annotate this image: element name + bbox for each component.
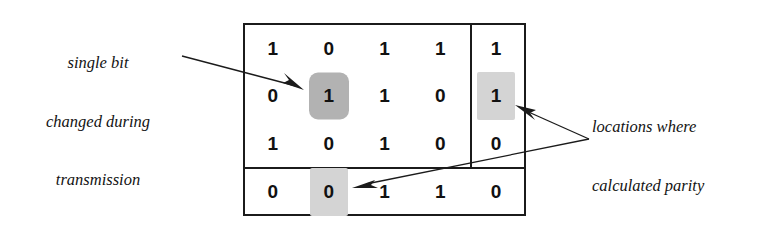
annotation-left-line-2: changed during (0, 112, 196, 132)
bit-value: 1 (379, 86, 390, 105)
bit-cell-r1c2: 0 (301, 25, 357, 72)
parity-cell-r3: 0 (468, 120, 524, 167)
bit-cell-r3c2: 0 (301, 120, 357, 167)
table-row: 1 0 1 0 0 (245, 120, 524, 167)
bit-cell-r3c4: 0 (412, 120, 468, 167)
bit-value: 0 (268, 86, 279, 105)
parity-cell-c4: 1 (412, 169, 468, 214)
bit-value: 0 (435, 134, 446, 153)
leader-parity-column-line (524, 110, 589, 139)
table-row: 1 0 1 1 1 (245, 25, 524, 72)
parity-cell-corner: 0 (468, 169, 524, 214)
annotation-left-line-3: transmission (0, 170, 196, 190)
bit-cell-r2c3: 1 (357, 72, 413, 119)
bit-cell-r3c3: 1 (357, 120, 413, 167)
bit-cell-r2c2-flipped: 1 (301, 72, 357, 119)
bit-cell-r3c1: 1 (245, 120, 301, 167)
parity-grid: 1 0 1 1 1 0 1 1 (243, 23, 526, 216)
table-row: 0 1 1 0 1 (245, 72, 524, 119)
bit-value: 1 (379, 182, 390, 201)
bit-value: 1 (268, 39, 279, 58)
bit-value: 1 (379, 39, 390, 58)
bit-cell-r1c4: 1 (412, 25, 468, 72)
bit-value: 0 (491, 182, 502, 201)
bit-value: 0 (323, 39, 334, 58)
bit-value: 0 (491, 134, 502, 153)
parity-cell-c2-mismatch: 0 (301, 169, 357, 214)
parity-cell-c1: 0 (245, 169, 301, 214)
annotation-parity-bits-disagree: locations where calculated parity bits d… (592, 78, 778, 231)
diagram-canvas: single bit changed during transmission l… (0, 0, 778, 231)
bit-value: 1 (491, 86, 502, 105)
bit-cell-r2c1: 0 (245, 72, 301, 119)
bit-value: 0 (323, 134, 334, 153)
bit-value: 1 (491, 39, 502, 58)
bit-value: 1 (435, 182, 446, 201)
parity-cell-r2-mismatch: 1 (468, 72, 524, 119)
bit-value: 1 (268, 134, 279, 153)
bit-cell-r1c1: 1 (245, 25, 301, 72)
bit-value: 0 (268, 182, 279, 201)
annotation-right-line-1: locations where (592, 117, 778, 137)
bit-value: 0 (323, 182, 334, 201)
parity-cell-c3: 1 (357, 169, 413, 214)
annotation-left-line-1: single bit (0, 53, 196, 73)
annotation-single-bit-changed: single bit changed during transmission (0, 14, 196, 229)
parity-cell-r1: 1 (468, 25, 524, 72)
annotation-right-line-2: calculated parity (592, 176, 778, 196)
parity-row: 0 0 1 1 0 (245, 169, 524, 214)
bit-value: 1 (323, 86, 334, 105)
bit-value: 1 (379, 134, 390, 153)
bit-value: 1 (435, 39, 446, 58)
bit-value: 0 (435, 86, 446, 105)
bit-cell-r1c3: 1 (357, 25, 413, 72)
bit-cell-r2c4: 0 (412, 72, 468, 119)
